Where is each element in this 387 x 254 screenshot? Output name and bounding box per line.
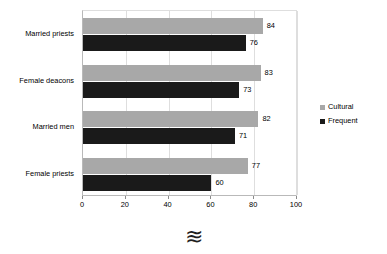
x-axis: 020406080100 bbox=[82, 196, 297, 212]
bar-group: 8476 bbox=[83, 18, 297, 52]
x-tick-mark bbox=[296, 196, 297, 199]
bar-frequent bbox=[83, 35, 246, 51]
bar-cultural bbox=[83, 158, 248, 174]
category-axis-labels: Married priestsFemale deaconsMarried men… bbox=[0, 10, 78, 196]
bar-value-label: 73 bbox=[243, 86, 251, 93]
x-tick-label: 80 bbox=[249, 201, 257, 208]
x-tick-mark bbox=[168, 196, 169, 199]
x-tick-label: 20 bbox=[121, 201, 129, 208]
bar-cultural bbox=[83, 18, 263, 34]
x-tick-mark bbox=[253, 196, 254, 199]
legend-label: Frequent bbox=[328, 117, 358, 124]
chart-legend: CulturalFrequent bbox=[320, 101, 384, 129]
x-tick-label: 100 bbox=[290, 201, 302, 208]
bar-value-label: 77 bbox=[252, 162, 260, 169]
bar-value-label: 76 bbox=[250, 39, 258, 46]
bar-value-label: 60 bbox=[215, 179, 223, 186]
legend-swatch-icon bbox=[320, 119, 325, 124]
bottom-squiggle-mark: ≋ bbox=[0, 226, 387, 248]
bar-group: 8271 bbox=[83, 111, 297, 145]
legend-item[interactable]: Cultural bbox=[320, 101, 384, 113]
bar-group: 7760 bbox=[83, 158, 297, 192]
x-tick-mark bbox=[82, 196, 83, 199]
bar-value-label: 83 bbox=[265, 69, 273, 76]
legend-swatch-icon bbox=[320, 105, 325, 110]
bar-value-label: 82 bbox=[262, 115, 270, 122]
category-label: Female priests bbox=[0, 170, 74, 177]
bar-cultural bbox=[83, 111, 258, 127]
bar-frequent bbox=[83, 175, 211, 191]
x-tick-label: 60 bbox=[206, 201, 214, 208]
x-tick-label: 40 bbox=[163, 201, 171, 208]
bar-cultural bbox=[83, 65, 261, 81]
bar-frequent bbox=[83, 82, 239, 98]
category-label: Married priests bbox=[0, 30, 74, 37]
bar-group: 8373 bbox=[83, 65, 297, 99]
legend-label: Cultural bbox=[328, 103, 353, 110]
legend-item[interactable]: Frequent bbox=[320, 115, 384, 127]
bar-frequent bbox=[83, 128, 235, 144]
bar-chart: Married priestsFemale deaconsMarried men… bbox=[0, 0, 387, 254]
x-tick-mark bbox=[210, 196, 211, 199]
bar-value-label: 71 bbox=[239, 132, 247, 139]
bar-value-label: 84 bbox=[267, 22, 275, 29]
category-label: Married men bbox=[0, 123, 74, 130]
x-tick-label: 0 bbox=[80, 201, 84, 208]
category-label: Female deacons bbox=[0, 77, 74, 84]
gridline bbox=[297, 11, 298, 195]
plot-area: 8476837382717760 bbox=[82, 10, 297, 196]
x-tick-mark bbox=[125, 196, 126, 199]
